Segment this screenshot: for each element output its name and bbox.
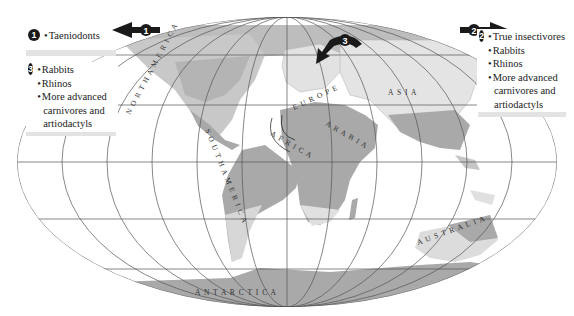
label-antarctica: A N T A R C T I C A	[195, 288, 277, 297]
legend-1: 1 Taeniodonts	[26, 28, 102, 44]
legend-1-shadow	[26, 50, 116, 56]
legend-3-item: Rabbits	[35, 63, 116, 77]
arrow-1-west-icon: 1	[112, 22, 160, 38]
legend-2-item: More advanced carnivores and artiodactyl…	[486, 71, 565, 112]
legend-2-item: True insectivores	[486, 30, 565, 44]
antarctica-landmass	[30, 262, 540, 316]
svg-text:1: 1	[143, 26, 148, 36]
legend-3-number: 3	[28, 63, 33, 75]
svg-text:3: 3	[342, 36, 347, 46]
label-asia: A S I A	[388, 88, 417, 97]
legend-3: 3 Rabbits Rhinos More advanced carnivore…	[26, 62, 118, 132]
legend-3-item: Rhinos	[35, 77, 116, 91]
legend-3-item: More advanced carnivores and artiodactyl…	[35, 90, 116, 131]
legend-2-number: 2	[479, 30, 484, 42]
legend-1-item: Taeniodonts	[42, 29, 100, 43]
legend-1-number: 1	[28, 29, 40, 41]
legend-2-item: Rhinos	[486, 57, 565, 71]
legend-2-item: Rabbits	[486, 44, 565, 58]
legend-2: 2 True insectivores Rabbits Rhinos More …	[477, 29, 567, 112]
svg-text:2: 2	[471, 26, 476, 36]
